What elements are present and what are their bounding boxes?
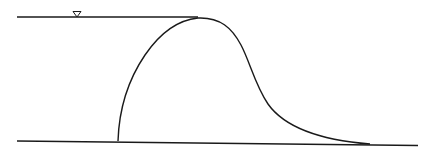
weir-profile-diagram (0, 0, 440, 158)
weir-profile-curve (118, 18, 370, 144)
diagram-canvas (0, 0, 440, 158)
water-level-icon (73, 12, 81, 18)
